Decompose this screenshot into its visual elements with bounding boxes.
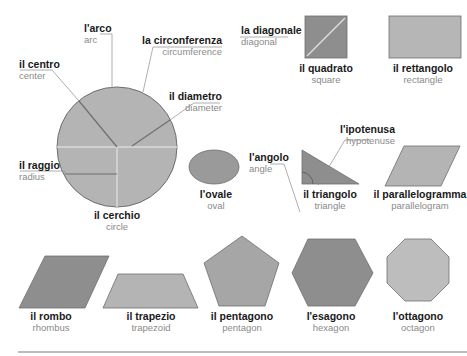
label-diagonal: la diagonale diagonal — [241, 25, 302, 47]
rectangle-shape — [389, 16, 461, 58]
label-arc: l'arco arc — [84, 23, 112, 45]
caption-triangle: il triangolo triangle — [303, 189, 357, 211]
label-radius: il raggio radius — [19, 160, 60, 182]
label-circumference: la circonferenza circumference — [142, 35, 222, 57]
oval-shape — [189, 150, 239, 184]
shapes-canvas — [0, 0, 467, 356]
caption-trapezoid: il trapezio trapezoid — [126, 311, 175, 333]
caption-octagon: l'ottagono octagon — [393, 311, 443, 333]
trapezoid-shape — [103, 274, 198, 308]
circle-shape — [57, 87, 177, 207]
caption-parallelogram: il parallelogramma parallelogram — [374, 189, 467, 211]
caption-rhombus: il rombo rhombus — [30, 311, 71, 333]
label-angle: l'angolo angle — [249, 152, 289, 174]
parallelogram-shape — [385, 146, 460, 186]
caption-hexagon: l'esagono hexagon — [307, 311, 356, 333]
caption-square: il quadrato square — [299, 63, 353, 85]
caption-circle: il cerchio circle — [94, 210, 140, 232]
caption-pentagon: il pentagono pentagon — [211, 311, 273, 333]
pentagon-shape — [204, 236, 279, 306]
rhombus-shape — [19, 256, 109, 308]
label-diameter: il diametro diameter — [169, 91, 222, 113]
octagon-shape — [387, 239, 449, 301]
label-center: il centro center — [19, 59, 60, 81]
hexagon-shape — [292, 239, 373, 306]
triangle-shape — [302, 150, 359, 184]
caption-oval: l'ovale oval — [200, 189, 232, 211]
square-shape — [305, 16, 347, 58]
label-hypotenuse: l'ipotenusa hypotenuse — [340, 124, 395, 146]
caption-rectangle: il rettangolo rectangle — [393, 63, 453, 85]
